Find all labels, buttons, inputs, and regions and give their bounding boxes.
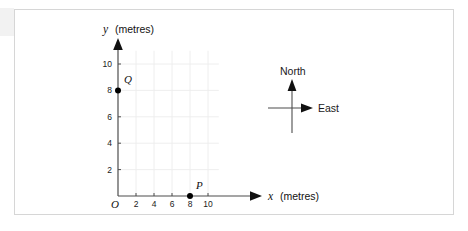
y-axis-label-variable: y: [102, 23, 109, 36]
data-point-label-q: Q: [124, 73, 132, 85]
data-point-p: [187, 193, 193, 199]
gridlines: [118, 51, 219, 196]
compass-east-label: East: [318, 102, 339, 114]
compass-rose: North East: [268, 65, 339, 133]
y-axis-arrow-icon: [113, 38, 123, 50]
compass-north-label: North: [280, 65, 306, 77]
figure-root: 246810246810 O x (metres) y (metres) PQ …: [0, 0, 468, 231]
y-axis-tick-label: 10: [103, 59, 113, 69]
x-axis-tick-label: 4: [152, 199, 157, 209]
y-axis-tick-label: 4: [107, 138, 112, 148]
x-axis-arrow-icon: [250, 191, 262, 201]
y-axis-tick-label: 8: [107, 85, 112, 95]
diagram-svg: 246810246810 O x (metres) y (metres) PQ …: [0, 0, 468, 231]
compass-east-arrow-icon: [301, 104, 313, 113]
y-axis-tick-label: 6: [107, 112, 112, 122]
x-axis-tick-label: 8: [188, 199, 193, 209]
origin-label: O: [111, 198, 119, 210]
x-axis-tick-label: 6: [170, 199, 175, 209]
x-axis-tick-label: 2: [134, 199, 139, 209]
coordinate-diagram: 246810246810 O x (metres) y (metres) PQ …: [0, 0, 468, 231]
x-axis-label-variable: x: [267, 190, 274, 202]
x-axis-tick-label: 10: [203, 199, 213, 209]
data-point-label-p: P: [195, 179, 203, 191]
data-point-q: [115, 87, 121, 93]
y-axis-label-unit: (metres): [115, 23, 154, 35]
y-axis-tick-label: 2: [107, 165, 112, 175]
x-axis-label-unit: (metres): [280, 190, 319, 202]
compass-north-arrow-icon: [288, 79, 297, 91]
